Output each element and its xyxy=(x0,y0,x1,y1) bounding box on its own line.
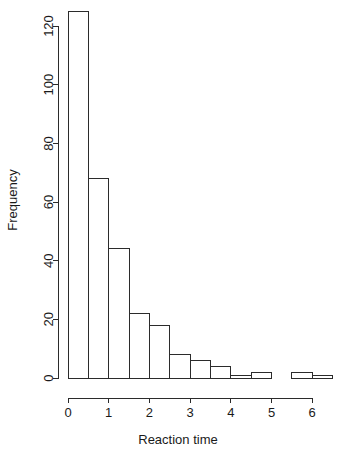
x-axis-tick-label: 2 xyxy=(146,405,153,420)
histogram-bar xyxy=(68,11,88,378)
x-axis-tick-label: 0 xyxy=(64,405,71,420)
chart-background xyxy=(0,0,354,454)
y-axis-title: Frequency xyxy=(5,169,20,231)
histogram-bar xyxy=(190,360,210,378)
histogram-bar xyxy=(170,355,190,378)
histogram-bar xyxy=(109,249,129,378)
x-axis-tick-label: 6 xyxy=(309,405,316,420)
x-axis-tick-label: 1 xyxy=(105,405,112,420)
x-axis-title: Reaction time xyxy=(138,432,217,447)
histogram-bar xyxy=(251,372,271,378)
histogram-bar xyxy=(88,179,108,378)
y-axis-tick-label: 60 xyxy=(41,195,56,209)
histogram-bar xyxy=(210,366,230,378)
y-axis-tick-label: 40 xyxy=(41,253,56,267)
histogram-bar xyxy=(292,372,312,378)
y-axis-tick-label: 20 xyxy=(41,312,56,326)
histogram-bar xyxy=(129,313,149,378)
reaction-time-histogram: 0123456 020406080100120 Reaction time Fr… xyxy=(0,0,354,454)
histogram-figure: 0123456 020406080100120 Reaction time Fr… xyxy=(0,0,354,454)
y-axis-tick-label: 120 xyxy=(41,15,56,37)
x-axis-tick-label: 3 xyxy=(186,405,193,420)
histogram-bar xyxy=(312,375,332,378)
y-axis-tick-label: 100 xyxy=(41,74,56,96)
y-axis-tick-label: 0 xyxy=(41,374,56,381)
y-axis-tick-label: 80 xyxy=(41,136,56,150)
x-axis-tick-label: 5 xyxy=(268,405,275,420)
histogram-bar xyxy=(231,375,251,378)
histogram-bar xyxy=(149,325,169,378)
x-axis-tick-label: 4 xyxy=(227,405,234,420)
